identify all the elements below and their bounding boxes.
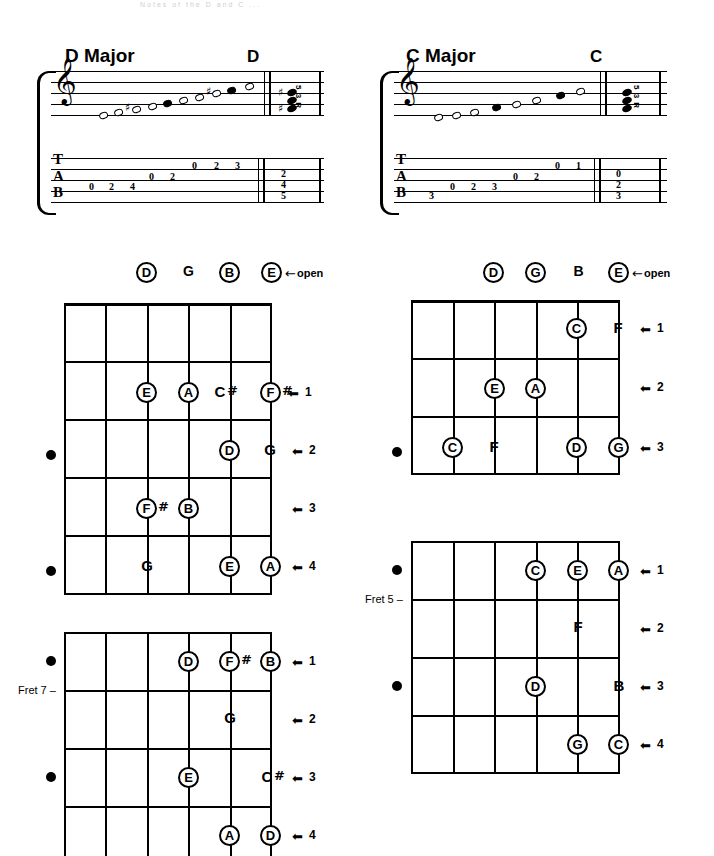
- fret-number: 2: [657, 380, 664, 394]
- string-line: [64, 303, 66, 595]
- fret-line: [64, 632, 272, 634]
- fret-note: C: [212, 383, 228, 401]
- fretboard-d-open: [64, 303, 272, 595]
- tab-number: 3: [429, 190, 434, 201]
- fret-number: 1: [657, 563, 664, 577]
- fret-line: [411, 599, 620, 601]
- fret-line: [64, 593, 272, 595]
- staff-d-major: 𝄞 ♯ ♯ ♯ ♯ 5 3 R: [51, 71, 324, 117]
- staff-c-major: 𝄞 5 3 R: [394, 71, 667, 117]
- barline: [600, 71, 601, 116]
- fret-arrow-icon: ⬅: [640, 740, 651, 752]
- fret-note: D: [525, 676, 546, 697]
- chord-degrees-d: 5 3 R: [294, 85, 302, 109]
- string-line: [188, 303, 190, 595]
- notation-block-d-major: D Major D 𝄞 ♯ ♯: [35, 45, 330, 220]
- fret-arrow-icon: ⬅: [640, 443, 651, 455]
- fret-line: [411, 541, 620, 543]
- fret-note: F: [610, 319, 626, 337]
- tab-chord-number: 2: [616, 179, 621, 190]
- barline-end: [319, 71, 321, 116]
- fret-arrow-icon: ⬅: [640, 682, 651, 694]
- chord-degrees-c: 5 3 R: [632, 85, 640, 109]
- fret-arrow-icon: ⬅: [292, 715, 303, 727]
- open-string-e: E: [261, 262, 282, 283]
- barline-end: [319, 158, 321, 203]
- tab-line: [394, 202, 667, 203]
- fret-line: [411, 772, 620, 774]
- tab-chord-number: 2: [281, 168, 286, 179]
- notation-block-c-major: C Major C 𝄞 5 3 R: [378, 45, 673, 220]
- fret-number: 1: [309, 654, 316, 668]
- open-string-b: B: [219, 262, 240, 283]
- fret-note: A: [608, 560, 629, 581]
- position-dot: [46, 566, 56, 576]
- fret-number: 2: [657, 621, 664, 635]
- fret-note: A: [178, 382, 199, 403]
- fret-line: [64, 477, 272, 479]
- sharp-accidental: ♯: [125, 102, 130, 113]
- tab-number: 0: [89, 181, 94, 192]
- position-dot: [392, 681, 402, 691]
- string-line: [105, 303, 107, 595]
- staff-line: [51, 71, 324, 72]
- notehead: [98, 111, 109, 120]
- fret-arrow-icon: ⬅: [292, 562, 303, 574]
- chord-name-d: D: [247, 47, 259, 67]
- treble-clef-icon: 𝄞: [53, 60, 77, 100]
- fret-note: E: [484, 378, 505, 399]
- tab-line: [394, 191, 667, 192]
- fret-number: 2: [309, 712, 316, 726]
- string-line: [105, 632, 107, 856]
- fret-line: [64, 690, 272, 692]
- fret-line: [64, 361, 272, 363]
- fret-number: 3: [657, 440, 664, 454]
- position-dot: [392, 565, 402, 575]
- tab-number: 2: [170, 171, 175, 182]
- tab-letter-b: B: [396, 187, 406, 198]
- fret-number: 3: [309, 770, 316, 784]
- tab-chord-number: 4: [281, 179, 286, 190]
- fret-note: F: [570, 618, 586, 636]
- tab-letter-t: T: [53, 154, 63, 165]
- tab-number: 4: [130, 181, 135, 192]
- fret-note: G: [262, 441, 278, 459]
- tab-letter-a: A: [53, 171, 64, 182]
- open-string-d: D: [483, 262, 504, 283]
- sheet-page: Notes of the D and C ... D Major D 𝄞 ♯ ♯: [0, 0, 714, 856]
- fret-line: [411, 657, 620, 659]
- sharp-accidental: #: [158, 500, 169, 514]
- tab-chord-number: 3: [616, 190, 621, 201]
- notehead: [451, 111, 462, 120]
- fret-arrow-icon: ⬅: [292, 773, 303, 785]
- fret-note: G: [139, 557, 155, 575]
- string-line: [147, 632, 149, 856]
- position-dot: [46, 450, 56, 460]
- fret-number: 3: [309, 501, 316, 515]
- notehead: [211, 89, 222, 98]
- fret-arrow-icon: ⬅: [640, 624, 651, 636]
- sharp-accidental: #: [241, 653, 252, 667]
- fret-number: 4: [657, 737, 664, 751]
- notehead: [555, 91, 566, 100]
- fret-note: C: [442, 437, 463, 458]
- tab-number: 0: [450, 181, 455, 192]
- open-row-c: D G B E ← open: [411, 262, 661, 288]
- fret-note: A: [260, 556, 281, 577]
- fret-position-label-d: Fret 7 –: [18, 684, 56, 696]
- fret-note: E: [136, 382, 157, 403]
- open-arrow-icon: ←: [632, 268, 643, 280]
- tab-number: 3: [492, 181, 497, 192]
- tab-line: [394, 169, 667, 170]
- tab-number: 2: [471, 181, 476, 192]
- open-arrow-icon: ←: [285, 268, 296, 280]
- barline-end: [659, 158, 661, 203]
- barline: [269, 71, 271, 116]
- staff-line: [51, 115, 324, 116]
- tab-number: 2: [534, 171, 539, 182]
- fret-number: 4: [309, 828, 316, 842]
- position-dot: [392, 447, 402, 457]
- tab-line: [394, 158, 667, 159]
- tab-number: 2: [214, 160, 219, 171]
- fret-note: A: [525, 378, 546, 399]
